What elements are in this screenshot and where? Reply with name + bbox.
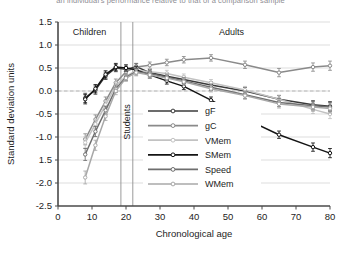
y-tick-label: 1.5 <box>39 154 52 165</box>
chart-legend: gFgCVMemSMemSpeedWMem <box>143 102 261 196</box>
legend-label: VMem <box>205 136 231 146</box>
legend-marker <box>171 182 175 186</box>
x-tick-label: 40 <box>189 211 200 222</box>
legend-marker <box>171 109 175 113</box>
legend-label: SMem <box>205 150 231 160</box>
y-tick-label: 1.0 <box>39 39 52 50</box>
band-label-children: Children <box>73 27 107 37</box>
y-tick-label: -2.0 <box>36 177 52 188</box>
legend-marker <box>171 124 175 128</box>
x-tick-label: 10 <box>87 211 98 222</box>
line-chart-svg: 1.51.00.50.0-0.5-1.01.5-2.0-2.5010203040… <box>0 10 341 262</box>
y-tick-label: -1.0 <box>36 131 52 142</box>
x-tick-label: 70 <box>291 211 302 222</box>
x-axis-title: Chronological age <box>156 228 233 239</box>
chart-plot-area: 1.51.00.50.0-0.5-1.01.5-2.0-2.5010203040… <box>0 10 341 262</box>
band-label-students: Students <box>122 104 132 140</box>
legend-marker <box>171 153 175 157</box>
legend-label: gF <box>205 106 216 116</box>
y-tick-label: 1.5 <box>39 16 52 27</box>
band-label-adults: Adults <box>219 27 245 37</box>
x-tick-label: 60 <box>257 211 268 222</box>
y-tick-label: -0.5 <box>36 108 52 119</box>
legend-label: Speed <box>205 165 231 175</box>
x-tick-label: 80 <box>325 211 336 222</box>
legend-label: WMem <box>205 179 234 189</box>
caption-cutoff-text: an individual's performance relative to … <box>0 0 341 9</box>
y-axis-title: Standard deviation units <box>5 63 16 165</box>
caption-cutoff-label: an individual's performance relative to … <box>56 0 285 5</box>
x-tick-label: 50 <box>223 211 234 222</box>
y-tick-label: -2.5 <box>36 200 52 211</box>
x-tick-label: 0 <box>55 211 60 222</box>
legend-label: gC <box>205 121 217 131</box>
y-tick-label: 0.5 <box>39 62 52 73</box>
legend-marker <box>171 138 175 142</box>
y-tick-label: 0.0 <box>39 85 52 96</box>
x-tick-label: 30 <box>155 211 166 222</box>
x-tick-label: 20 <box>121 211 132 222</box>
figure-root: an individual's performance relative to … <box>0 0 341 262</box>
legend-marker <box>171 168 175 172</box>
